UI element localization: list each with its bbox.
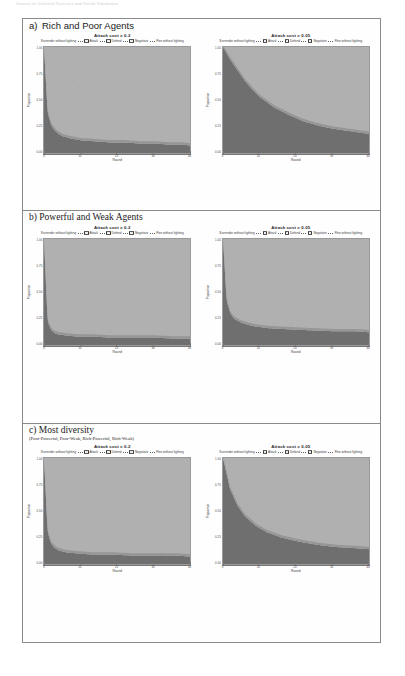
section-a-title: a)Rich and Poor Agents bbox=[29, 21, 380, 31]
figure-section-b: b) Powerful and Weak Agents Attack cost … bbox=[23, 211, 380, 424]
plot-wrapper: Proportion 1.00 0.75 0.50 0.25 0.00 bbox=[208, 46, 374, 154]
legend-dash-icon bbox=[256, 41, 261, 42]
section-b-title: b) Powerful and Weak Agents bbox=[29, 213, 380, 223]
legend-dash-icon bbox=[100, 233, 105, 234]
x-tick: 0 bbox=[222, 346, 224, 350]
x-tick: 10 bbox=[78, 154, 81, 158]
legend-item: Flee without fighting bbox=[335, 232, 363, 236]
x-tick: 20 bbox=[115, 346, 118, 350]
y-tick: 0.50 bbox=[215, 97, 221, 101]
x-tick: 0 bbox=[222, 565, 224, 569]
legend-dash-icon bbox=[123, 41, 128, 42]
y-tick: 0.25 bbox=[37, 534, 43, 538]
chart-a-cost-005: Attack cost = 0.05 Surrender without fig… bbox=[208, 33, 374, 165]
chart-title: Attack cost = 0.05 bbox=[208, 33, 374, 38]
legend-dash-icon bbox=[78, 41, 83, 42]
legend-item: Defend bbox=[285, 40, 300, 44]
y-axis-ticks: 1.00 0.75 0.50 0.25 0.00 bbox=[210, 457, 221, 565]
legend-item: Attack bbox=[263, 232, 277, 236]
x-tick: 40 bbox=[188, 565, 191, 569]
y-tick: 1.00 bbox=[215, 456, 221, 460]
x-axis: 0 10 20 30 40 Round bbox=[222, 154, 370, 165]
x-tick: 0 bbox=[222, 154, 224, 158]
section-a-header: a)Rich and Poor Agents bbox=[23, 19, 380, 31]
chart-legend: Surrender without fighting Attack Defend… bbox=[208, 232, 374, 236]
chart-title: Attack cost = 0.2 bbox=[29, 33, 195, 38]
legend-label: Negotiate bbox=[135, 232, 148, 236]
legend-dash-icon bbox=[150, 233, 155, 234]
legend-swatch-icon bbox=[106, 450, 110, 454]
y-tick: 0.75 bbox=[215, 482, 221, 486]
legend-dash-icon bbox=[150, 41, 155, 42]
legend-swatch-icon bbox=[285, 232, 289, 236]
chart-title: Attack cost = 0.2 bbox=[29, 225, 195, 230]
plot-area bbox=[43, 238, 191, 346]
chart-c-cost-02: Attack cost = 0.2 Surrender without figh… bbox=[29, 444, 195, 576]
x-tick: 10 bbox=[257, 565, 260, 569]
y-axis-ticks: 1.00 0.75 0.50 0.25 0.00 bbox=[210, 238, 221, 346]
x-axis: 0 10 20 30 40 Round bbox=[43, 154, 191, 165]
legend-swatch-icon bbox=[106, 40, 110, 44]
legend-dash-icon bbox=[100, 452, 105, 453]
legend-label: Flee without fighting bbox=[335, 232, 363, 236]
y-axis-ticks: 1.00 0.75 0.50 0.25 0.00 bbox=[31, 457, 42, 565]
y-tick: 0.25 bbox=[215, 315, 221, 319]
legend-swatch-icon bbox=[129, 232, 133, 236]
x-tick: 30 bbox=[151, 565, 154, 569]
x-tick: 20 bbox=[293, 565, 296, 569]
y-tick: 0.00 bbox=[37, 341, 43, 345]
y-tick: 0.00 bbox=[37, 149, 43, 153]
chart-legend: Surrender without fighting Attack Defend… bbox=[208, 40, 374, 44]
chart-b-cost-02: Attack cost = 0.2 Surrender without figh… bbox=[29, 225, 195, 357]
plot-wrapper: Proportion 1.00 0.75 0.50 0.25 0.00 bbox=[208, 457, 374, 565]
plot-area bbox=[222, 46, 370, 154]
x-tick: 20 bbox=[293, 346, 296, 350]
chart-legend: Surrender without fighting Attack Defend… bbox=[208, 450, 374, 454]
legend-label: Defend bbox=[112, 451, 122, 455]
legend-item: Negotiate bbox=[129, 450, 148, 454]
chart-legend: Surrender without fighting Attack Defend… bbox=[29, 450, 195, 454]
x-axis: 0 10 20 30 40 Round bbox=[43, 565, 191, 576]
x-axis-ticks: 0 10 20 30 40 bbox=[222, 565, 370, 569]
legend-dash-icon bbox=[278, 452, 283, 453]
x-axis-ticks: 0 10 20 30 40 bbox=[222, 346, 370, 350]
legend-swatch-icon bbox=[285, 450, 289, 454]
chart-title: Attack cost = 0.05 bbox=[208, 225, 374, 230]
legend-label: Defend bbox=[290, 40, 300, 44]
chart-title: Attack cost = 0.05 bbox=[208, 444, 374, 449]
x-axis-label: Round bbox=[43, 569, 191, 573]
x-tick: 40 bbox=[188, 154, 191, 158]
legend-item: Flee without fighting bbox=[335, 40, 363, 44]
legend-swatch-icon bbox=[84, 40, 88, 44]
legend-label: Negotiate bbox=[313, 451, 326, 455]
x-axis: 0 10 20 30 40 Round bbox=[43, 346, 191, 357]
legend-swatch-icon bbox=[308, 450, 312, 454]
legend-item: Flee without fighting bbox=[156, 451, 184, 455]
figure-frame: a)Rich and Poor Agents Attack cost = 0.2… bbox=[22, 18, 381, 643]
legend-item: Flee without fighting bbox=[335, 451, 363, 455]
y-tick: 0.50 bbox=[37, 289, 43, 293]
x-axis-label: Round bbox=[43, 350, 191, 354]
y-axis-ticks: 1.00 0.75 0.50 0.25 0.00 bbox=[210, 46, 221, 154]
legend-dash-icon bbox=[301, 41, 306, 42]
legend-dash-icon bbox=[78, 452, 83, 453]
plot-area bbox=[43, 46, 191, 154]
x-axis-label: Round bbox=[43, 158, 191, 162]
legend-item: Surrender without fighting bbox=[219, 451, 254, 455]
y-tick: 0.00 bbox=[215, 341, 221, 345]
y-tick: 1.00 bbox=[37, 45, 43, 49]
section-c-letter: c) bbox=[29, 425, 36, 435]
y-tick: 0.50 bbox=[215, 289, 221, 293]
legend-label: Defend bbox=[290, 232, 300, 236]
legend-swatch-icon bbox=[285, 40, 289, 44]
y-tick: 0.00 bbox=[215, 149, 221, 153]
x-tick: 10 bbox=[257, 346, 260, 350]
legend-dash-icon bbox=[278, 233, 283, 234]
legend-label: Surrender without fighting bbox=[219, 232, 254, 236]
legend-dash-icon bbox=[328, 41, 333, 42]
y-tick: 0.75 bbox=[215, 71, 221, 75]
legend-label: Surrender without fighting bbox=[41, 232, 76, 236]
x-axis-label: Round bbox=[222, 350, 370, 354]
x-tick: 0 bbox=[43, 565, 45, 569]
chart-legend: Surrender without fighting Attack Defend… bbox=[29, 40, 195, 44]
